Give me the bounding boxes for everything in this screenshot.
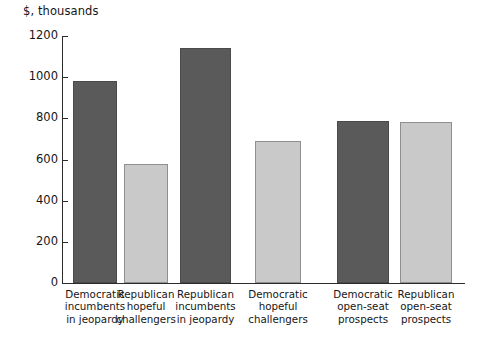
category-label-line: incumbents [170, 300, 242, 312]
y-axis-tick-mark [62, 283, 68, 284]
y-axis-tick-mark [62, 201, 68, 202]
y-axis-tick-label: 400 [36, 195, 58, 207]
category-label-line: Republican [390, 288, 462, 300]
y-axis-tick-mark [62, 36, 68, 37]
bar [73, 81, 117, 283]
y-axis-tick-label: 600 [36, 154, 58, 166]
category-label-line: Republican [170, 288, 242, 300]
bar [400, 122, 452, 283]
plot-area: 020040060080010001200 Democraticincumben… [0, 0, 479, 341]
x-axis-category-label: Democratichopefulchallengers [242, 288, 314, 325]
category-label-line: prospects [390, 313, 462, 325]
category-label-line: in jeopardy [170, 313, 242, 325]
bar-chart: $, thousands 020040060080010001200 Democ… [0, 0, 479, 341]
category-label-line: Democratic [327, 288, 399, 300]
y-axis-tick-mark [62, 77, 68, 78]
bar [180, 48, 231, 283]
x-axis-category-label: Democraticopen-seatprospects [327, 288, 399, 325]
category-label-line: prospects [327, 313, 399, 325]
x-axis-category-label: Republicanincumbentsin jeopardy [170, 288, 242, 325]
category-label-line: open-seat [327, 300, 399, 312]
y-axis-tick-mark [62, 242, 68, 243]
category-label-line: hopeful [242, 300, 314, 312]
category-label-line: open-seat [390, 300, 462, 312]
bar [337, 121, 389, 283]
y-axis-tick-label: 0 [51, 277, 58, 289]
y-axis-tick-label: 800 [36, 113, 58, 125]
y-axis-tick-label: 1200 [29, 30, 58, 42]
category-label-line: challengers [242, 313, 314, 325]
y-axis-tick-mark [62, 118, 68, 119]
bar [124, 164, 168, 283]
y-axis-tick-label: 1000 [29, 71, 58, 83]
x-axis-category-label: Republicanopen-seatprospects [390, 288, 462, 325]
category-label-line: Democratic [242, 288, 314, 300]
y-axis-tick-label: 200 [36, 236, 58, 248]
bar [255, 141, 301, 283]
x-axis-line [62, 283, 465, 284]
y-axis-tick-mark [62, 160, 68, 161]
